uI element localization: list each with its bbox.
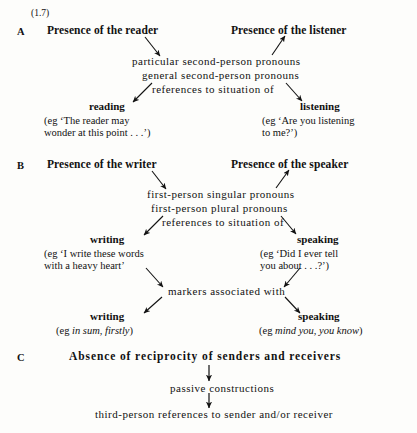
arrow-a-reader-to-pronouns <box>145 37 160 56</box>
section-a-left-example-line-2: wonder at this point . . .’) <box>44 127 150 138</box>
section-a-middle-line-1: particular second-person pronouns <box>132 56 301 68</box>
section-b-left-example-line-1: (eg ‘I write these words <box>44 248 144 259</box>
arrow-a-pronouns-to-listener <box>272 36 285 55</box>
section-letter-a: A <box>17 26 25 37</box>
arrow-a-to-listening <box>286 83 302 101</box>
arrow-b-markers-to-writing <box>144 297 162 313</box>
arrow-a-to-reading <box>133 83 152 102</box>
figure-canvas: (1.7) A Presence of the reader Presence … <box>0 0 417 433</box>
section-a-middle-line-2: general second-person pronouns <box>142 70 299 82</box>
markers-left-example-suffix: ) <box>130 325 134 336</box>
section-c-heading: Absence of reciprocity of senders and re… <box>69 350 341 362</box>
arrow-b-pronouns-to-speaker <box>276 170 289 188</box>
section-b-markers-right-example: (eg mind you, you know) <box>259 325 363 336</box>
section-b-markers-left-example: (eg in sum, firstly) <box>56 325 133 336</box>
section-a-right-example-line-2: to me?’) <box>262 127 297 138</box>
markers-right-example-prefix: (eg <box>259 325 275 336</box>
section-b-left-outcome: writing <box>90 234 124 246</box>
section-b-right-example-line-1: (eg ‘Did I ever tell <box>260 248 338 259</box>
section-b-right-example-line-2: you about . . .?’) <box>260 260 329 271</box>
section-c-line-2: third-person references to sender and/or… <box>95 409 333 421</box>
section-b-left-heading: Presence of the writer <box>47 158 157 170</box>
markers-left-example-italic: in sum, firstly <box>72 325 129 336</box>
section-a-left-example-line-1: (eg ‘The reader may <box>44 115 129 126</box>
section-c-line-1: passive constructions <box>170 383 274 395</box>
arrow-b-to-writing <box>144 216 163 235</box>
section-a-right-heading: Presence of the listener <box>231 24 347 36</box>
section-b-markers-line: markers associated with <box>168 286 285 298</box>
markers-right-example-suffix: ) <box>359 325 363 336</box>
section-b-left-example-line-2: with a heavy heart’ <box>44 260 125 271</box>
markers-left-example-prefix: (eg <box>56 325 72 336</box>
section-letter-b: B <box>17 160 24 171</box>
section-b-markers-left-outcome: writing <box>90 311 124 323</box>
section-a-left-outcome: reading <box>89 101 125 113</box>
section-b-markers-right-outcome: speaking <box>298 311 340 323</box>
figure-number: (1.7) <box>31 9 49 19</box>
section-b-middle-line-2: first-person plural pronouns <box>151 203 288 215</box>
section-letter-c: C <box>17 352 25 363</box>
section-a-right-outcome: listening <box>300 101 340 113</box>
section-b-middle-line-1: first-person singular pronouns <box>147 189 295 201</box>
arrow-b-writing-to-markers <box>146 268 163 287</box>
section-a-right-example-line-1: (eg ‘Are you listening <box>262 115 354 126</box>
markers-right-example-italic: mind you, you know <box>275 325 359 336</box>
section-b-right-outcome: speaking <box>297 234 339 246</box>
section-b-middle-line-3: references to situation of <box>162 217 284 229</box>
section-a-left-heading: Presence of the reader <box>47 24 158 36</box>
arrow-b-writer-to-pronouns <box>152 171 166 189</box>
section-b-right-heading: Presence of the speaker <box>231 158 348 170</box>
section-a-middle-line-3: references to situation of <box>152 84 274 96</box>
